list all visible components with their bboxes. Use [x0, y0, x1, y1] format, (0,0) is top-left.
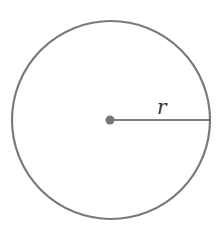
circle-diagram: r — [0, 0, 216, 233]
radius-label: r — [157, 95, 168, 119]
center-point — [106, 116, 115, 125]
